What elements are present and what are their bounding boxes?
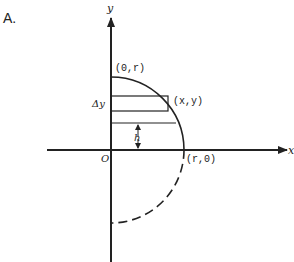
y-axis-label: y [106,2,114,15]
point-top-label: (0,r) [115,63,145,74]
height-label: h [134,132,140,143]
lower-dashed-arc [111,150,184,223]
semicircle-diagram: A. y x O h (0,r) (x,y) (r,0) Δy [0,0,294,262]
panel-label: A. [3,10,16,26]
point-xy-label: (x,y) [173,96,203,107]
origin-label: O [101,153,109,164]
strip-rectangle [111,96,168,111]
delta-y-label: Δy [91,98,105,109]
point-right-label: (r,0) [186,154,216,165]
upper-arc [111,77,184,150]
x-axis-label: x [288,144,294,157]
